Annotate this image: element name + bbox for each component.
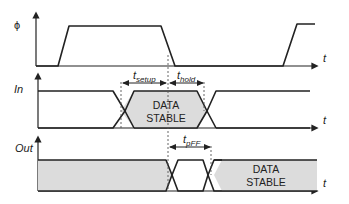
out-initial-data-region	[38, 160, 172, 191]
t-setup-label: tsetup	[133, 69, 156, 84]
in-waveform-top	[38, 91, 134, 128]
in-time-axis-label: t	[323, 114, 327, 126]
out-data-stable-line2: STABLE	[246, 176, 286, 188]
out-data-stable-line1: DATA	[253, 163, 279, 175]
t-pff-label: tpFF	[183, 133, 201, 148]
t-hold-label: thold	[177, 69, 196, 84]
phi-label: ϕ	[14, 19, 20, 31]
t-setup-annotation: tsetup	[123, 69, 166, 84]
in-data-stable-line1: DATA	[153, 99, 179, 111]
in-data-stable-line2: STABLE	[146, 112, 186, 124]
t-hold-annotation: thold	[170, 69, 203, 84]
in-signal-group: In t DATA STABLE	[14, 76, 327, 128]
phi-time-axis-label: t	[323, 52, 327, 64]
phi-waveform	[36, 24, 315, 66]
phi-signal-group: ϕ t	[14, 15, 327, 66]
t-pff-annotation: tpFF	[170, 133, 210, 148]
out-label: Out	[15, 142, 34, 154]
out-time-axis-label: t	[323, 177, 327, 189]
in-label: In	[14, 83, 23, 95]
timing-diagram: ϕ t In t DATA STABLE Out t DATA STABLE	[0, 0, 349, 204]
